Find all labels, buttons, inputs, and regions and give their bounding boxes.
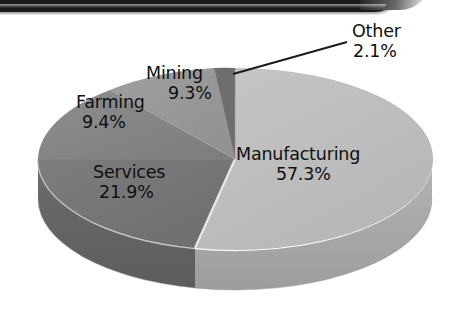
callout-leader-line-other bbox=[233, 42, 347, 74]
slice-label-mining: Mining 9.3% bbox=[146, 64, 212, 104]
slice-label-manufacturing: Manufacturing 57.3% bbox=[236, 145, 360, 185]
slice-label-farming-value: 9.4% bbox=[82, 113, 145, 133]
slice-label-manufacturing-value: 57.3% bbox=[276, 165, 360, 185]
slice-label-manufacturing-name: Manufacturing bbox=[236, 145, 360, 165]
slice-label-mining-name: Mining bbox=[146, 64, 212, 84]
slice-label-services-value: 21.9% bbox=[99, 183, 165, 203]
slice-label-other-value: 2.1% bbox=[353, 42, 401, 62]
slice-label-farming: Farming 9.4% bbox=[76, 93, 145, 133]
slice-label-farming-name: Farming bbox=[76, 93, 145, 113]
slice-label-mining-value: 9.3% bbox=[168, 84, 212, 104]
slice-label-services-name: Services bbox=[93, 163, 165, 183]
slice-label-services: Services 21.9% bbox=[93, 163, 165, 203]
slice-label-other-name: Other bbox=[352, 22, 401, 42]
slice-label-other: Other 2.1% bbox=[352, 22, 401, 62]
chart-page: Other 2.1% Mining 9.3% Farming 9.4% Serv… bbox=[0, 0, 467, 335]
